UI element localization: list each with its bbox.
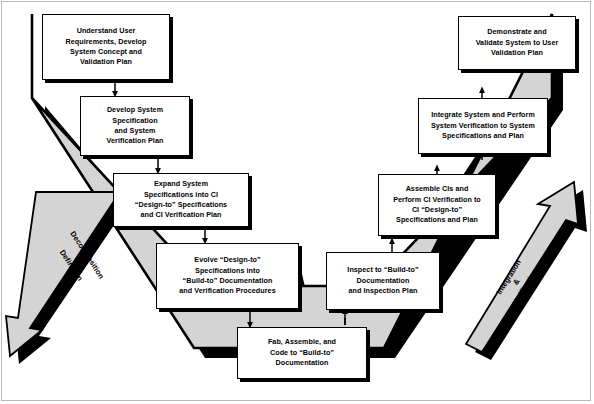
v-model-diagram: Understand User Requirements, Develop Sy…	[0, 0, 594, 404]
process-box-text: Assemble CIs and Perform CI Verification…	[393, 184, 481, 226]
process-box-text: Demonstrate and Validate System to User …	[476, 27, 559, 58]
process-box-text: Inspect to “Build-to” Documentation and …	[347, 265, 418, 296]
process-box-develop-system-specification[interactable]: Develop System Specification and System …	[80, 96, 190, 156]
process-box-understand-user-requirements[interactable]: Understand User Requirements, Develop Sy…	[42, 14, 170, 80]
process-box-demonstrate-validate-system[interactable]: Demonstrate and Validate System to User …	[458, 16, 576, 70]
process-box-text: Integrate System and Perform System Veri…	[431, 110, 535, 141]
process-box-expand-system-specifications[interactable]: Expand System Specifications into CI “De…	[113, 173, 249, 227]
process-box-fab-assemble-code[interactable]: Fab, Assemble, and Code to “Build-to” Do…	[237, 327, 367, 379]
process-box-text: Understand User Requirements, Develop Sy…	[66, 26, 147, 68]
process-box-assemble-cis-perform-ci-verification[interactable]: Assemble CIs and Perform CI Verification…	[378, 174, 496, 236]
process-box-text: Fab, Assemble, and Code to “Build-to” Do…	[268, 337, 336, 368]
process-box-integrate-system-perform-verification[interactable]: Integrate System and Perform System Veri…	[418, 98, 548, 154]
process-box-text: Expand System Specifications into CI “De…	[135, 179, 227, 221]
process-box-inspect-to-build-to[interactable]: Inspect to “Build-to” Documentation and …	[326, 252, 440, 310]
process-box-evolve-design-to-specifications[interactable]: Evolve “Design-to” Specifications into “…	[156, 243, 299, 309]
process-box-text: Develop System Specification and System …	[107, 105, 164, 147]
process-box-text: Evolve “Design-to” Specifications into “…	[179, 255, 275, 297]
